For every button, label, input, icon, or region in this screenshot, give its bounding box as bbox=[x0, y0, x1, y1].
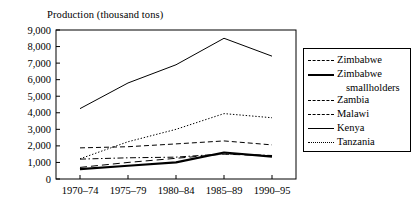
legend-item[interactable]: Zimbabwe bbox=[304, 54, 410, 68]
legend-line-swatch bbox=[308, 136, 334, 148]
legend-line-swatch bbox=[308, 122, 334, 134]
y-axis-tick-label: 2,000 bbox=[27, 140, 51, 151]
x-axis-tick-label: 1970–74 bbox=[62, 185, 100, 196]
y-axis-tick-label: 8,000 bbox=[27, 41, 51, 52]
legend-item-label: Malawi bbox=[337, 108, 369, 120]
legend-item-label: Tanzania bbox=[337, 136, 375, 148]
y-axis-tick-label: 0 bbox=[46, 174, 51, 185]
x-axis-tick-label: 1975–79 bbox=[110, 185, 147, 196]
legend-list: ZimbabweZimbabwesmallholdersZambiaMalawi… bbox=[304, 49, 410, 150]
y-axis-tick-label: 1,000 bbox=[27, 157, 51, 168]
series-line-zambia bbox=[80, 141, 272, 148]
legend-item[interactable]: Malawi bbox=[304, 108, 410, 122]
legend-item[interactable]: Zambia bbox=[304, 94, 410, 108]
y-axis-tick-label: 6,000 bbox=[27, 74, 51, 85]
series-line-tanzania bbox=[80, 114, 272, 159]
legend-line-swatch bbox=[308, 68, 334, 80]
legend-line-swatch bbox=[308, 108, 334, 120]
y-axis-tick-label: 9,000 bbox=[27, 25, 51, 36]
y-axis-tick-label: 3,000 bbox=[27, 124, 51, 135]
legend-item-label-continued: smallholders bbox=[304, 82, 410, 94]
y-axis-tick-label: 5,000 bbox=[27, 91, 51, 102]
series-line-malawi bbox=[80, 154, 272, 159]
legend-item-label: Zimbabwe bbox=[337, 54, 382, 66]
series-line-zimbabwe bbox=[80, 154, 272, 167]
x-axis-tick-label: 1980–84 bbox=[158, 185, 196, 196]
legend-item-label: Zimbabwe bbox=[337, 68, 382, 80]
legend-line-swatch bbox=[308, 54, 334, 66]
y-axis-tick-label: 7,000 bbox=[27, 58, 51, 69]
legend-item[interactable]: Zimbabwe bbox=[304, 68, 410, 82]
legend-line-swatch bbox=[308, 94, 334, 106]
legend-item[interactable]: Tanzania bbox=[304, 136, 410, 150]
y-axis-tick-label: 4,000 bbox=[27, 107, 51, 118]
chart-figure: Production (thousand tons) 01,0002,0003,… bbox=[0, 0, 415, 211]
legend-item-label: Kenya bbox=[337, 122, 364, 134]
x-axis-tick-label: 1985–89 bbox=[206, 185, 243, 196]
x-axis-tick-label: 1990–95 bbox=[254, 185, 291, 196]
legend-item[interactable]: Kenya bbox=[304, 122, 410, 136]
legend-item-label: Zambia bbox=[337, 94, 369, 106]
series-line-kenya bbox=[80, 38, 272, 108]
chart-legend: ZimbabweZimbabwesmallholdersZambiaMalawi… bbox=[303, 48, 411, 152]
